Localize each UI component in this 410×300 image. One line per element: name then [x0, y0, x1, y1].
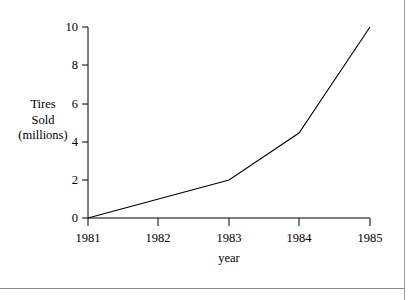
x-tick-label-1982: 1982 [123, 232, 193, 245]
page-frame-bottom-rule [0, 288, 405, 289]
x-axis-ticks [88, 218, 370, 226]
y-tick-label-8: 8 [38, 59, 78, 72]
y-axis-title-line-1: Tires [4, 97, 82, 113]
data-series-tires-sold [88, 27, 370, 218]
x-tick-label-1984: 1984 [264, 232, 334, 245]
y-axis-title: Tires Sold (millions) [4, 97, 82, 144]
page-frame-right-rule [404, 0, 405, 300]
y-tick-label-2: 2 [38, 174, 78, 187]
y-tick-label-0: 0 [38, 212, 78, 225]
x-tick-label-1983: 1983 [194, 232, 264, 245]
x-axis-title: year [189, 252, 269, 265]
line-chart-figure: 0 2 4 6 8 10 1981 1982 1983 1984 1985 Ti… [0, 0, 405, 288]
y-axis-title-line-2: Sold [4, 113, 82, 129]
x-tick-label-1981: 1981 [53, 232, 123, 245]
y-axis-title-line-3: (millions) [4, 128, 82, 144]
chart-page: 0 2 4 6 8 10 1981 1982 1983 1984 1985 Ti… [0, 0, 410, 300]
y-axis-ticks [82, 27, 88, 218]
y-tick-label-10: 10 [38, 21, 78, 34]
x-tick-label-1985: 1985 [335, 232, 405, 245]
